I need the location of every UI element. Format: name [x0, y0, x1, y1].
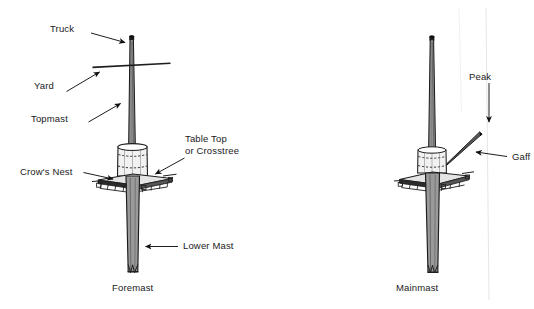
mainmast-leader-lines — [476, 83, 507, 157]
background-rule-line-2 — [459, 9, 462, 112]
gaff-leader — [476, 152, 507, 157]
caption-mainmast: Mainmast — [396, 282, 438, 293]
mainmast-drawing — [394, 8, 507, 300]
table-top-leader — [156, 158, 185, 174]
foremast-drawing — [67, 33, 185, 273]
label-topmast: Topmast — [31, 113, 68, 125]
caption-foremast: Foremast — [112, 282, 153, 293]
mainmast-crows-nest — [418, 147, 447, 173]
mainmast-topmast-spar — [429, 40, 436, 152]
label-crows-nest: Crow's Nest — [20, 166, 73, 178]
truck-leader — [91, 33, 125, 43]
topmast-spar — [129, 40, 136, 151]
crows-nest-leader — [84, 173, 114, 180]
diagram-canvas — [0, 0, 534, 309]
label-yard: Yard — [34, 80, 54, 92]
label-gaff: Gaff — [512, 151, 530, 163]
topmast-leader — [89, 104, 121, 123]
label-table-top: Table Top — [185, 133, 227, 145]
yard-leader — [67, 72, 100, 92]
label-peak: Peak — [469, 71, 491, 83]
label-lower-mast: Lower Mast — [183, 240, 234, 252]
lower-mast-spar — [126, 176, 140, 273]
label-truck: Truck — [50, 23, 74, 35]
mast-nomenclature-diagram: Truck Yard Topmast Table Top or Crosstre… — [0, 0, 534, 309]
label-crosstree: or Crosstree — [185, 145, 239, 157]
mainmast-lower-spar — [426, 173, 440, 273]
crows-nest-barrel — [118, 144, 148, 176]
